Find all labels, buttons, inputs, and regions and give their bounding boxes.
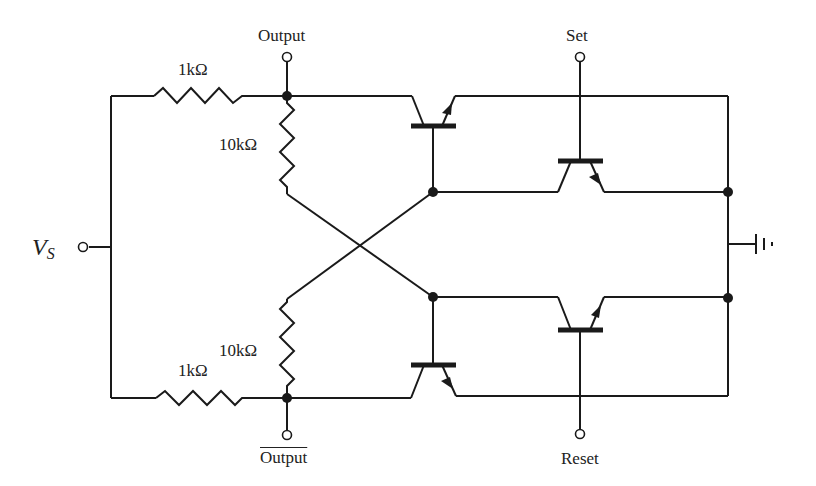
reset-terminal xyxy=(576,430,585,439)
resistor-10k-top-label: 10kΩ xyxy=(219,136,257,153)
circuit-schematic xyxy=(0,0,816,486)
transistor-q2 xyxy=(411,292,728,398)
ground-icon xyxy=(756,234,772,254)
supply-label: VS xyxy=(32,235,55,262)
output-top-terminal xyxy=(283,53,292,62)
resistor-10k-bottom xyxy=(280,299,294,398)
output-bottom-label: Output xyxy=(260,449,307,466)
reset-label: Reset xyxy=(561,450,599,467)
output-bottom-terminal xyxy=(283,431,292,440)
output-bottom-node xyxy=(282,393,411,440)
ground-rail xyxy=(723,96,755,396)
transistor-q1 xyxy=(411,96,728,197)
set-label: Set xyxy=(566,27,588,44)
supply-rail xyxy=(79,96,157,398)
resistor-10k-bottom-label: 10kΩ xyxy=(219,342,257,359)
output-top-node xyxy=(282,53,412,102)
vs-terminal xyxy=(79,243,88,252)
output-top-label: Output xyxy=(258,27,305,44)
resistor-1k-top xyxy=(154,88,287,103)
set-terminal xyxy=(576,53,585,62)
resistor-10k-top xyxy=(280,96,294,194)
resistor-1k-bottom xyxy=(156,391,287,405)
transistor-q4-reset xyxy=(433,297,728,439)
cross-wire-2 xyxy=(287,192,433,299)
transistor-q3-set xyxy=(433,53,728,193)
resistor-1k-bottom-label: 1kΩ xyxy=(178,362,208,379)
resistor-1k-top-label: 1kΩ xyxy=(178,61,208,78)
